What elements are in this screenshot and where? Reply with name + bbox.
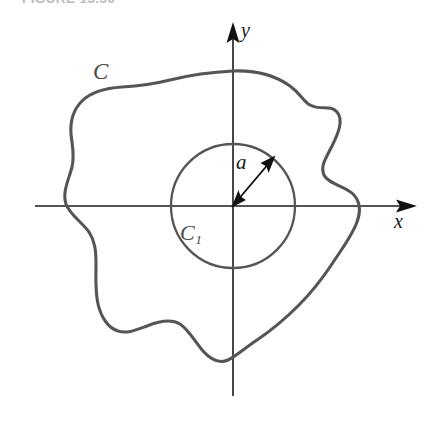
inner-circle-label-subscript: 1 [195, 232, 202, 247]
y-axis [227, 22, 240, 396]
figure-drawing [0, 0, 443, 424]
figure-container: FIGURE 13.30 C C1 a x y [0, 0, 443, 424]
inner-circle-label: C1 [180, 222, 202, 246]
outer-curve-label: C [93, 60, 108, 83]
radius-label: a [236, 152, 247, 173]
x-axis-label: x [394, 211, 403, 231]
outer-contour-curve [65, 71, 360, 362]
y-axis-label: y [241, 20, 250, 40]
inner-circle-label-base: C [180, 220, 195, 245]
